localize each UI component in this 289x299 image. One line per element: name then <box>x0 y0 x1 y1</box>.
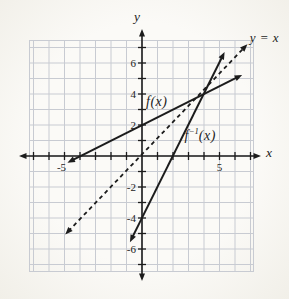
label-f-inverse-of-x: f−1(x) <box>184 126 215 144</box>
y-tick-label: -6 <box>127 243 137 255</box>
arrow-f-start <box>67 157 75 163</box>
x-tick-label: 5 <box>217 161 223 173</box>
y-tick-label: -2 <box>127 181 136 193</box>
x-axis-label: x <box>266 145 272 161</box>
graph-canvas: -55642-2-4-6 <box>0 0 289 299</box>
y-axis-top-arrow <box>139 29 145 37</box>
y-tick-label: 4 <box>131 88 137 100</box>
label-y-equals-x: y = x <box>250 30 279 46</box>
label-f-of-x: f(x) <box>146 94 167 110</box>
y-axis-label: y <box>134 9 140 25</box>
arrow-f_inverse-start <box>130 234 136 242</box>
y-tick-label: 6 <box>131 57 137 69</box>
f-inverse-superscript: −1 <box>189 126 199 136</box>
series-line-f <box>71 77 238 161</box>
y-tick-label: -4 <box>127 212 137 224</box>
f-inverse-rest: (x) <box>199 128 216 143</box>
series-line-identity <box>68 48 244 232</box>
x-axis-left-arrow <box>19 153 27 159</box>
x-tick-label: -5 <box>57 161 67 173</box>
y-axis-bottom-arrow <box>139 274 145 282</box>
textbook-graph-page: -55642-2-4-6 f(x) f−1(x) y = x x y <box>0 0 289 299</box>
coordinate-plane: -55642-2-4-6 f(x) f−1(x) y = x x y <box>0 0 289 299</box>
x-axis-right-arrow <box>254 153 262 159</box>
